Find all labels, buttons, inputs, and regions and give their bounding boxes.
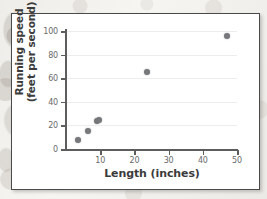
data-point bbox=[85, 128, 91, 134]
x-axis-tick bbox=[169, 150, 171, 155]
scatter-plot-area bbox=[66, 31, 237, 149]
y-axis-tick-label: 80 bbox=[48, 50, 58, 59]
scanned-page-background: 020406080100 1020304050 Running speed (f… bbox=[0, 0, 267, 199]
data-point bbox=[144, 69, 150, 75]
data-point bbox=[75, 137, 81, 143]
x-axis-title: Length (inches) bbox=[52, 167, 252, 180]
x-axis-tick-label: 20 bbox=[130, 156, 140, 165]
x-axis-tick bbox=[100, 150, 102, 155]
y-axis-tick-label: 60 bbox=[48, 74, 58, 83]
figure-panel: 020406080100 1020304050 Running speed (f… bbox=[11, 13, 260, 190]
y-axis-tick-label: 100 bbox=[43, 27, 58, 36]
x-axis-tick bbox=[203, 150, 205, 155]
data-point bbox=[96, 117, 102, 123]
y-axis-tick-label: 40 bbox=[48, 97, 58, 106]
x-axis-tick-label: 30 bbox=[164, 156, 174, 165]
y-axis-title-line1: Running speed bbox=[13, 0, 25, 112]
y-axis-title-line2: (feet per second) bbox=[25, 0, 37, 112]
y-axis-title: Running speed (feet per second) bbox=[13, 0, 37, 112]
data-point bbox=[224, 33, 230, 39]
x-axis-tick-label: 50 bbox=[232, 156, 242, 165]
x-axis-tick bbox=[134, 150, 136, 155]
y-axis-tick bbox=[61, 149, 66, 151]
x-axis-line bbox=[65, 149, 238, 151]
x-axis-tick bbox=[237, 150, 239, 155]
x-axis-tick-label: 40 bbox=[198, 156, 208, 165]
y-axis-tick-label: 0 bbox=[53, 145, 58, 154]
y-axis-tick-label: 20 bbox=[48, 121, 58, 130]
x-axis-tick-label: 10 bbox=[95, 156, 105, 165]
